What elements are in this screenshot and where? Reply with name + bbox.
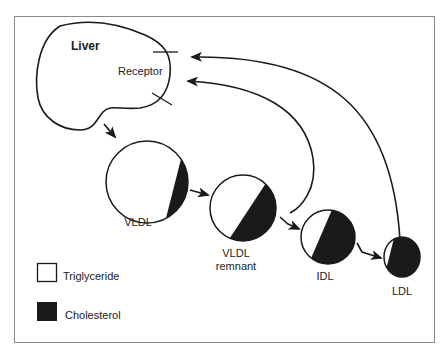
legend-triglyceride-swatch — [38, 264, 57, 282]
vldl-remnant-label: VLDL — [222, 247, 250, 259]
idl-particle — [301, 205, 360, 270]
legend-triglyceride-label: Triglyceride — [63, 270, 119, 282]
ldl-particle — [384, 230, 425, 285]
vldl-remnant-label-2: remnant — [216, 260, 256, 272]
vldl-remnant-particle — [210, 175, 290, 250]
remnant-to-idl-arrow — [280, 217, 299, 229]
idl-label: IDL — [316, 270, 333, 282]
vldl-particle — [106, 141, 200, 230]
vldl-label: VLDL — [124, 216, 152, 228]
liver-label: Liver — [71, 40, 100, 52]
legend-cholesterol-swatch — [37, 302, 57, 321]
liver-to-vldl-arrow — [104, 124, 115, 137]
lipoprotein-diagram — [0, 0, 443, 355]
ldl-label: LDL — [392, 285, 412, 297]
vldl-to-remnant-arrow — [190, 190, 208, 195]
legend-cholesterol-label: Cholesterol — [65, 309, 121, 321]
idl-to-ldl-arrow — [357, 243, 381, 258]
receptor-label: Receptor — [118, 65, 163, 77]
